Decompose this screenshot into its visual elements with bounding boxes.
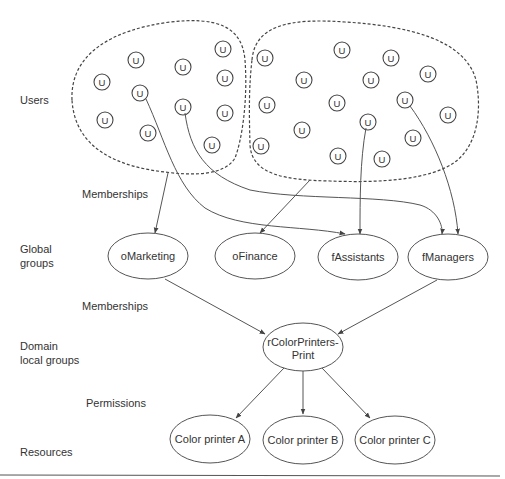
svg-text:rColorPrinters-: rColorPrinters- bbox=[267, 336, 339, 348]
user-icon: U bbox=[128, 52, 144, 68]
domain-local-group-rColorPrinters-Print[interactable]: rColorPrinters- Print bbox=[263, 323, 343, 371]
svg-text:U: U bbox=[133, 55, 140, 66]
svg-text:U: U bbox=[368, 75, 375, 86]
tier-label-global-line1: Global bbox=[20, 242, 52, 256]
svg-text:U: U bbox=[365, 117, 372, 128]
resource-color-printer-c[interactable]: Color printer C bbox=[355, 416, 435, 464]
svg-text:U: U bbox=[99, 77, 106, 88]
right-user-set-boundary bbox=[249, 21, 478, 182]
svg-text:U: U bbox=[299, 125, 306, 136]
user-icon: U bbox=[217, 70, 233, 86]
svg-text:Color printer C: Color printer C bbox=[359, 434, 431, 446]
tier-label-users: Users bbox=[20, 93, 49, 107]
user-icon: U bbox=[215, 41, 231, 57]
user-icon: U bbox=[140, 125, 156, 141]
svg-text:U: U bbox=[379, 154, 386, 165]
user-icon: U bbox=[296, 72, 312, 88]
user-icon: U bbox=[363, 72, 379, 88]
svg-text:Color printer B: Color printer B bbox=[268, 434, 339, 446]
svg-text:U: U bbox=[334, 98, 341, 109]
svg-text:Print: Print bbox=[292, 349, 315, 361]
group-oFinance[interactable]: oFinance bbox=[215, 233, 295, 279]
tier-label-domain-line1: Domain bbox=[20, 339, 58, 353]
user-icon: U bbox=[374, 151, 390, 167]
svg-text:fManagers: fManagers bbox=[422, 251, 474, 263]
user-icon: U bbox=[257, 50, 273, 66]
svg-text:U: U bbox=[102, 115, 109, 126]
group-oMarketing[interactable]: oMarketing bbox=[108, 233, 188, 279]
svg-text:U: U bbox=[402, 95, 409, 106]
global-groups: oMarketing oFinance fAssistants fManager… bbox=[108, 233, 488, 280]
svg-text:U: U bbox=[145, 128, 152, 139]
user-icon: U bbox=[383, 50, 399, 66]
group-fAssistants[interactable]: fAssistants bbox=[318, 234, 398, 280]
svg-text:U: U bbox=[258, 141, 265, 152]
svg-text:oFinance: oFinance bbox=[232, 250, 277, 262]
resource-color-printer-b[interactable]: Color printer B bbox=[263, 416, 343, 464]
user-icon: U bbox=[253, 138, 269, 154]
svg-text:U: U bbox=[209, 140, 216, 151]
svg-text:U: U bbox=[264, 100, 271, 111]
svg-text:U: U bbox=[410, 133, 417, 144]
user-icon: U bbox=[97, 112, 113, 128]
tier-label-memberships-1: Memberships bbox=[82, 187, 148, 201]
svg-text:U: U bbox=[301, 75, 308, 86]
resources: Color printer A Color printer B Color pr… bbox=[170, 415, 435, 464]
user-icon: U bbox=[204, 137, 220, 153]
left-user-set: UUUUUUUUUUU bbox=[94, 41, 233, 153]
right-user-set: UUUUUUUUUUUUUUUU bbox=[253, 42, 456, 167]
user-icon: U bbox=[175, 99, 191, 115]
user-icon: U bbox=[217, 105, 233, 121]
group-fManagers[interactable]: fManagers bbox=[408, 234, 488, 280]
user-icon: U bbox=[334, 42, 350, 58]
svg-text:U: U bbox=[335, 151, 342, 162]
svg-text:U: U bbox=[339, 45, 346, 56]
user-icon: U bbox=[294, 122, 310, 138]
tier-label-permissions: Permissions bbox=[86, 396, 146, 410]
user-icon: U bbox=[360, 114, 376, 130]
bottom-divider bbox=[0, 475, 500, 476]
user-icon: U bbox=[132, 85, 148, 101]
tier-label-global-line2: groups bbox=[20, 256, 54, 270]
svg-text:U: U bbox=[137, 88, 144, 99]
svg-text:U: U bbox=[388, 53, 395, 64]
svg-text:U: U bbox=[222, 73, 229, 84]
resource-color-printer-a[interactable]: Color printer A bbox=[170, 415, 250, 463]
user-icon: U bbox=[175, 59, 191, 75]
tier-label-resources: Resources bbox=[20, 445, 73, 459]
svg-text:oMarketing: oMarketing bbox=[121, 250, 175, 262]
user-icon: U bbox=[259, 97, 275, 113]
svg-text:U: U bbox=[180, 102, 187, 113]
tier-label-domain-line2: local groups bbox=[20, 353, 79, 367]
group-strategy-diagram: UUUUUUUUUUU UUUUUUUUUUUUUUUU oMarketing … bbox=[0, 0, 505, 479]
svg-text:U: U bbox=[445, 110, 452, 121]
permission-arrows bbox=[236, 368, 370, 418]
user-icon: U bbox=[330, 148, 346, 164]
membership-arrows-users-to-global bbox=[146, 99, 458, 234]
user-icon: U bbox=[397, 92, 413, 108]
svg-text:U: U bbox=[180, 62, 187, 73]
svg-text:Color printer A: Color printer A bbox=[175, 433, 246, 445]
tier-label-memberships-2: Memberships bbox=[82, 299, 148, 313]
user-icon: U bbox=[94, 74, 110, 90]
user-icon: U bbox=[405, 130, 421, 146]
svg-text:U: U bbox=[220, 44, 227, 55]
svg-text:U: U bbox=[425, 69, 432, 80]
svg-text:U: U bbox=[262, 53, 269, 64]
user-icon: U bbox=[329, 95, 345, 111]
svg-text:U: U bbox=[222, 108, 229, 119]
user-icon: U bbox=[440, 107, 456, 123]
svg-text:fAssistants: fAssistants bbox=[331, 251, 385, 263]
user-icon: U bbox=[420, 66, 436, 82]
